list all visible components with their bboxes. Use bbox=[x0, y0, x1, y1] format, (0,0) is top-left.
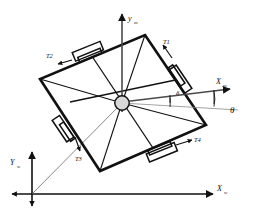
body-x-axis-sublabel: m bbox=[223, 83, 227, 88]
world-frame-group bbox=[12, 152, 213, 206]
force-arrow-T1 bbox=[163, 45, 172, 58]
world-y-axis-label: Y bbox=[10, 158, 16, 167]
body-center-hub bbox=[115, 96, 129, 110]
thruster-label-T3: T3 bbox=[75, 155, 83, 162]
thruster-label-T2: T2 bbox=[46, 52, 54, 59]
theta-angle-label: θ bbox=[230, 105, 235, 115]
figure-canvas: y m X m Y w X w δ θ T1 T2 T3 T4 bbox=[0, 0, 255, 219]
hub-spoke-bottom bbox=[100, 103, 122, 171]
thruster-pod-T1 bbox=[168, 65, 192, 94]
world-x-axis-sublabel: w bbox=[224, 190, 228, 195]
body-frame-group bbox=[114, 14, 230, 112]
heading-reference-line bbox=[122, 103, 238, 110]
hub-spoke-top bbox=[122, 35, 145, 103]
body-y-axis-label: y bbox=[127, 14, 132, 23]
force-arrow-T2 bbox=[58, 60, 72, 64]
kinematics-diagram: y m X m Y w X w δ θ T1 T2 T3 T4 bbox=[0, 0, 255, 219]
force-arrow-T4 bbox=[176, 140, 192, 145]
thruster-pod-T2 bbox=[72, 41, 103, 62]
thruster-label-T4: T4 bbox=[194, 136, 202, 143]
world-x-axis-label: X bbox=[216, 184, 223, 193]
body-x-axis bbox=[114, 89, 230, 103]
body-y-axis-sublabel: m bbox=[134, 20, 138, 25]
world-y-axis-sublabel: w bbox=[17, 164, 21, 169]
body-x-axis-label: X bbox=[215, 77, 222, 86]
theta-angle-marker bbox=[214, 90, 215, 107]
position-vector bbox=[32, 103, 122, 194]
thruster-label-T1: T1 bbox=[163, 38, 170, 45]
